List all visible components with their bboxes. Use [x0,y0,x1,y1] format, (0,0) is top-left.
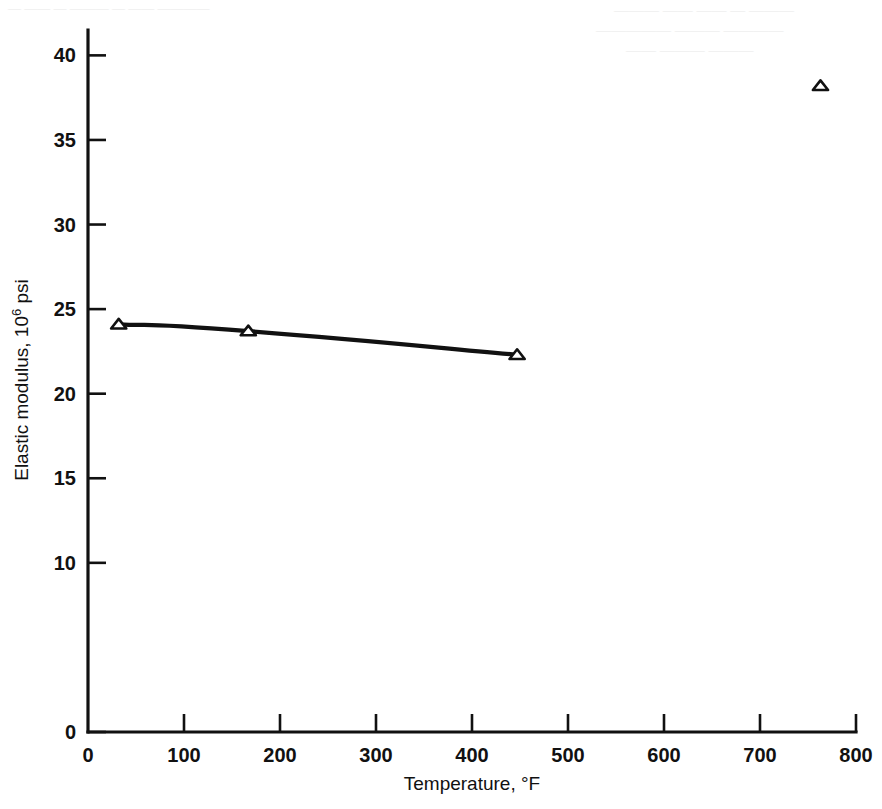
data-curve-elastic-modulus-curve [119,324,517,354]
x-tick-label-100: 100 [167,744,200,766]
y-axis-tick-labels: 010152025303540 [54,44,76,743]
data-marker-elastic-modulus-curve-0 [111,319,126,329]
data-marker-isolated-high-temperature-point-0 [813,80,828,90]
x-tick-label-300: 300 [359,744,392,766]
x-tick-label-200: 200 [263,744,296,766]
axes [88,30,856,732]
figure-page: — —— — ——— — —— ———— ——— —— —— — ——— ———… [0,0,882,809]
data-series-layer [111,80,828,359]
x-axis-ticks [184,714,856,732]
y-tick-label-20: 20 [54,383,76,405]
y-tick-label-30: 30 [54,214,76,236]
y-tick-label-15: 15 [54,467,76,489]
y-tick-label-0: 0 [65,721,76,743]
x-tick-label-800: 800 [839,744,872,766]
y-tick-label-40: 40 [54,44,76,66]
x-tick-label-600: 600 [647,744,680,766]
elastic-modulus-vs-temperature-chart: 010152025303540 010020030040050060070080… [0,0,882,809]
y-tick-label-10: 10 [54,552,76,574]
y-tick-label-35: 35 [54,129,76,151]
x-tick-label-500: 500 [551,744,584,766]
x-axis-tick-labels: 0100200300400500600700800 [82,744,872,766]
x-tick-label-400: 400 [455,744,488,766]
y-axis-ticks [88,55,106,732]
data-marker-elastic-modulus-curve-1 [241,326,256,336]
y-axis-title: Elastic modulus, 106 psi [9,279,32,481]
x-tick-label-700: 700 [743,744,776,766]
y-tick-label-25: 25 [54,298,76,320]
x-axis-title: Temperature, °F [404,773,540,794]
x-tick-label-0: 0 [82,744,93,766]
data-marker-elastic-modulus-curve-2 [510,349,525,359]
